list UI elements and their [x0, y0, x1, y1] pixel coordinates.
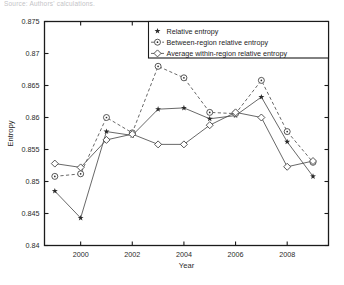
y-tick-label: 0.84 [26, 241, 40, 250]
y-axis-title: Entropy [6, 120, 15, 146]
legend-item-2[interactable]: Between-region relative entropy [151, 38, 268, 47]
marker-circle-dot [261, 80, 263, 82]
x-tick-label: 2000 [73, 250, 89, 259]
x-tick-label: 2004 [176, 250, 192, 259]
y-tick-label: 0.845 [22, 209, 40, 218]
legend-item-3[interactable]: Average within-region relative entropy [151, 49, 287, 58]
y-tick-label: 0.875 [22, 17, 40, 26]
y-tick-label: 0.85 [26, 177, 40, 186]
marker-circle-dot [54, 176, 56, 178]
marker-circle-dot [286, 131, 288, 133]
y-tick-label: 0.87 [26, 49, 40, 58]
marker-circle-dot [209, 112, 211, 114]
legend-label: Relative entropy [167, 27, 219, 36]
y-tick-label: 0.865 [22, 81, 40, 90]
x-axis-title: Year [179, 261, 195, 270]
marker-circle-dot [157, 65, 159, 67]
x-tick-label: 2006 [228, 250, 244, 259]
legend-label: Between-region relative entropy [167, 38, 269, 47]
entropy-line-chart: 0.840.8450.850.8550.860.8650.870.8752000… [0, 0, 344, 285]
y-tick-label: 0.855 [22, 145, 40, 154]
marker-circle-dot [183, 77, 185, 79]
marker-circle-dot [106, 117, 108, 119]
marker-circle-dot [157, 41, 159, 43]
x-tick-label: 2002 [124, 250, 140, 259]
legend-label: Average within-region relative entropy [167, 49, 288, 58]
marker-circle-dot [80, 173, 82, 175]
x-tick-label: 2008 [279, 250, 295, 259]
y-tick-label: 0.86 [26, 113, 40, 122]
